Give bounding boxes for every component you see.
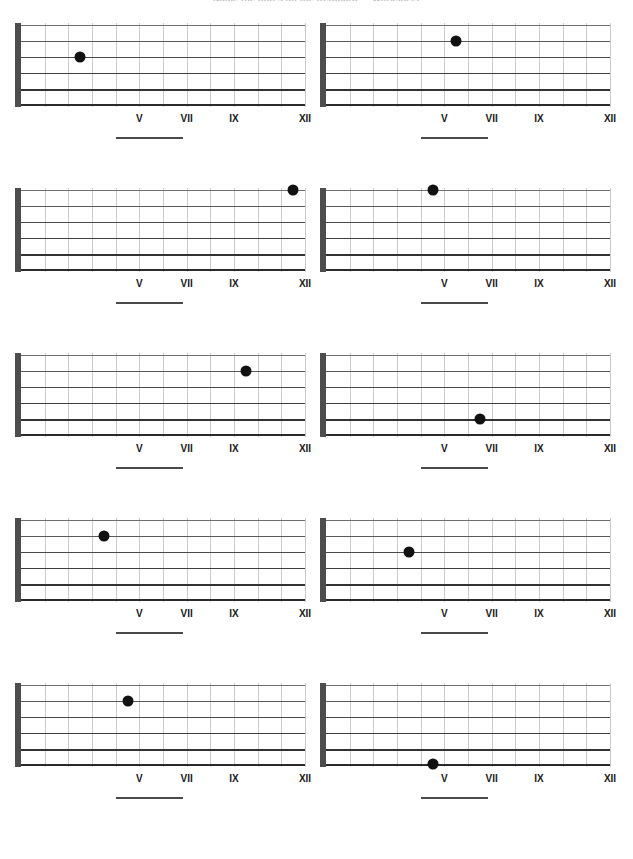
fret-marker-labels: VVIIIXXII [326, 278, 610, 292]
fret-label-vii: VII [181, 443, 193, 454]
fret-line [92, 23, 93, 107]
fret-line [234, 683, 235, 767]
note-dot[interactable] [75, 52, 86, 63]
fret-line [210, 353, 211, 437]
fretboard: VVIIIXXII [15, 685, 305, 765]
string-line-6 [21, 599, 305, 601]
fret-line [586, 518, 587, 602]
fret-line [421, 23, 422, 107]
string-line-1 [21, 520, 305, 521]
note-dot[interactable] [403, 547, 414, 558]
fret-label-xii: XII [299, 113, 311, 124]
fret-line [444, 23, 445, 107]
note-dot[interactable] [427, 185, 438, 196]
string-line-1 [326, 355, 610, 356]
fret-line [350, 683, 351, 767]
answer-blank[interactable] [421, 632, 488, 634]
fret-line [515, 23, 516, 107]
answer-blank[interactable] [421, 137, 488, 139]
fret-line [234, 188, 235, 272]
string-line-6 [21, 434, 305, 436]
fret-label-v: V [136, 443, 143, 454]
fret-line [139, 683, 140, 767]
fret-line [610, 188, 611, 272]
fret-line [397, 683, 398, 767]
string-line-1 [326, 190, 610, 191]
fret-line [492, 188, 493, 272]
note-dot[interactable] [474, 414, 485, 425]
fretboard-diagram: VVIIIXXII [15, 330, 320, 495]
string-line-1 [326, 25, 610, 26]
note-dot[interactable] [288, 185, 299, 196]
fret-line [539, 23, 540, 107]
answer-blank[interactable] [116, 797, 183, 799]
fret-label-ix: IX [534, 278, 543, 289]
fretboard-diagram: VVIIIXXII [320, 495, 625, 660]
fret-line [515, 518, 516, 602]
string-line-5 [21, 89, 305, 91]
fret-line [139, 518, 140, 602]
answer-blank[interactable] [421, 797, 488, 799]
fret-line [563, 518, 564, 602]
fret-label-ix: IX [229, 443, 238, 454]
string-line-1 [326, 685, 610, 686]
answer-blank[interactable] [421, 467, 488, 469]
fret-line [586, 683, 587, 767]
fret-label-vii: VII [486, 443, 498, 454]
fret-line [45, 518, 46, 602]
string-line-1 [21, 355, 305, 356]
fret-line [586, 353, 587, 437]
note-dot[interactable] [240, 366, 251, 377]
answer-blank[interactable] [116, 302, 183, 304]
string-line-2 [21, 41, 305, 42]
fret-label-vii: VII [181, 773, 193, 784]
fret-line [281, 518, 282, 602]
string-line-3 [326, 222, 610, 223]
fret-line [45, 188, 46, 272]
string-line-4 [326, 238, 610, 239]
note-dot[interactable] [451, 36, 462, 47]
fret-line [350, 188, 351, 272]
fret-line [305, 23, 306, 107]
fret-line [45, 353, 46, 437]
fret-line [539, 353, 540, 437]
fret-line [397, 518, 398, 602]
answer-blank[interactable] [116, 632, 183, 634]
fret-line [116, 353, 117, 437]
string-line-5 [326, 254, 610, 256]
answer-blank[interactable] [116, 137, 183, 139]
fret-line [397, 353, 398, 437]
string-line-2 [326, 41, 610, 42]
diagram-row: VVIIIXXIIVVIIIXXII [0, 165, 633, 330]
fret-label-ix: IX [534, 443, 543, 454]
diagram-row: VVIIIXXIIVVIIIXXII [0, 0, 633, 165]
note-dot[interactable] [122, 696, 133, 707]
string-line-5 [21, 584, 305, 586]
note-dot[interactable] [427, 759, 438, 770]
fretboard: VVIIIXXII [320, 355, 610, 435]
fret-label-vii: VII [181, 278, 193, 289]
fret-line [210, 23, 211, 107]
fretboard-grid [326, 25, 610, 105]
fretboard-diagram: VVIIIXXII [320, 330, 625, 495]
fret-marker-labels: VVIIIXXII [326, 773, 610, 787]
string-line-3 [21, 552, 305, 553]
fretboard-grid [21, 685, 305, 765]
fret-label-vii: VII [486, 278, 498, 289]
answer-blank[interactable] [421, 302, 488, 304]
fret-label-xii: XII [299, 278, 311, 289]
fret-line [45, 23, 46, 107]
string-line-6 [21, 764, 305, 766]
string-line-4 [326, 733, 610, 734]
fret-line [234, 23, 235, 107]
fret-line [468, 23, 469, 107]
note-dot[interactable] [98, 531, 109, 542]
fret-line [258, 518, 259, 602]
fret-label-v: V [441, 773, 448, 784]
fret-line [305, 188, 306, 272]
fret-line [305, 683, 306, 767]
string-line-5 [21, 749, 305, 751]
fret-label-v: V [441, 113, 448, 124]
fretboard-grid [21, 520, 305, 600]
answer-blank[interactable] [116, 467, 183, 469]
